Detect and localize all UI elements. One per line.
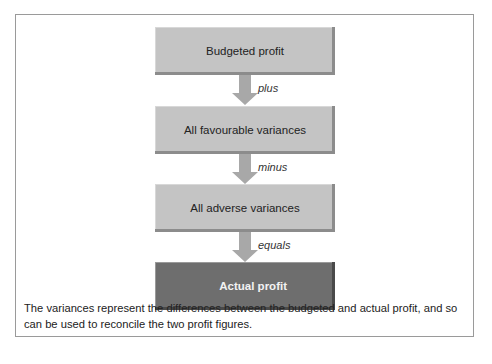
step-label: All adverse variances (190, 202, 299, 214)
step-favourable-variances: All favourable variances (155, 106, 335, 154)
operator-minus: minus (258, 161, 287, 173)
step-label: All favourable variances (184, 124, 306, 136)
operator-equals: equals (258, 239, 290, 251)
step-label: Budgeted profit (206, 45, 284, 57)
down-arrow-icon (232, 232, 258, 262)
down-arrow-icon (232, 154, 258, 184)
operator-plus: plus (258, 82, 278, 94)
step-adverse-variances: All adverse variances (155, 184, 335, 232)
down-arrow-icon (232, 75, 258, 105)
figure-caption: The variances represent the differences … (24, 300, 464, 332)
step-label: Actual profit (219, 280, 287, 292)
step-budgeted-profit: Budgeted profit (155, 27, 335, 75)
